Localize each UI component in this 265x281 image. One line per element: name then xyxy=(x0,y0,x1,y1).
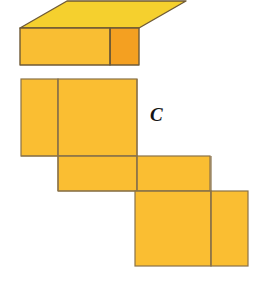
net-face-top-right-large xyxy=(58,79,137,156)
figure-drawing xyxy=(0,0,265,281)
prism-group xyxy=(20,1,186,65)
prism-side-face xyxy=(110,28,139,65)
net-face-middle-right xyxy=(137,156,210,191)
prism-front-face xyxy=(20,28,110,65)
figure-label-c: C xyxy=(150,105,163,124)
prism-top-face xyxy=(20,1,186,28)
net-face-top-left-small xyxy=(21,79,58,156)
net-face-bottom-left-large xyxy=(135,191,211,266)
net-group xyxy=(21,79,248,266)
net-face-bottom-right-small xyxy=(211,191,248,266)
figure-container: C xyxy=(0,0,265,281)
net-face-middle-left xyxy=(58,156,137,191)
